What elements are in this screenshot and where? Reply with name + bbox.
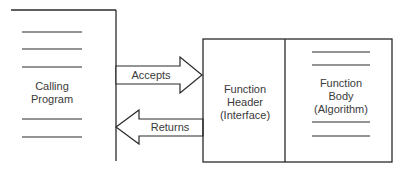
function-body-line2: Body — [298, 90, 384, 103]
calling-program-label-line1: Calling — [18, 80, 86, 93]
returns-label: Returns — [142, 121, 198, 134]
function-body-line1: Function — [298, 77, 384, 90]
calling-program-label: Calling Program — [18, 80, 86, 106]
function-header-line3: (Interface) — [205, 109, 285, 122]
function-header-line2: Header — [205, 96, 285, 109]
accepts-label: Accepts — [124, 69, 178, 82]
calling-program-label-line2: Program — [18, 93, 86, 106]
function-header-line1: Function — [205, 83, 285, 96]
function-body-line3: (Algorithm) — [298, 103, 384, 116]
function-header-label: Function Header (Interface) — [205, 83, 285, 122]
function-body-label: Function Body (Algorithm) — [298, 77, 384, 116]
